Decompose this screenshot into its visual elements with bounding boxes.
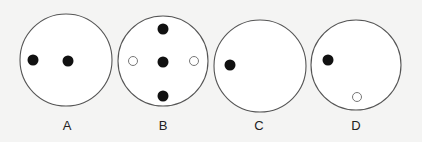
filled-dot xyxy=(63,56,74,67)
filled-dot xyxy=(28,55,39,66)
hollow-dot xyxy=(129,57,138,66)
panel-b xyxy=(118,16,208,106)
filled-dot xyxy=(158,24,169,35)
hollow-dot xyxy=(353,93,362,102)
panel-a xyxy=(20,14,112,106)
filled-dot xyxy=(158,57,169,68)
filled-dot xyxy=(158,91,169,102)
panel-label-d: D xyxy=(346,118,366,133)
panel-label-a: A xyxy=(57,118,77,133)
filled-dot xyxy=(225,60,236,71)
panel-label-c: C xyxy=(249,118,269,133)
panel-c xyxy=(214,20,306,112)
filled-dot xyxy=(323,55,334,66)
panel-d xyxy=(311,20,401,110)
hollow-dot xyxy=(190,57,199,66)
panel-label-b: B xyxy=(153,118,173,133)
